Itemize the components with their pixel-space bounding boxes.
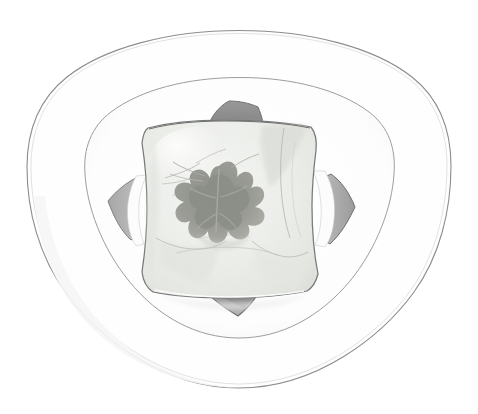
illustration-canvas: Plated Dish — Pencil and Watercolour Stu…: [0, 0, 478, 414]
plated-dish-drawing: [0, 0, 478, 414]
